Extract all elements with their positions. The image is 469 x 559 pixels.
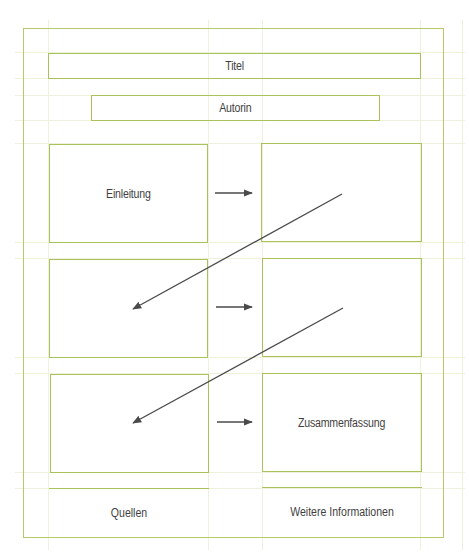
summary-label: Zusammenfassung bbox=[298, 416, 385, 430]
footer-divider-left bbox=[49, 488, 209, 489]
row3-right-box: Zusammenfassung bbox=[262, 373, 422, 472]
row2-right-box bbox=[262, 258, 422, 357]
row2-left-box bbox=[49, 259, 208, 358]
row1-left-box: Einleitung bbox=[49, 144, 208, 243]
title-box: Titel bbox=[48, 53, 421, 79]
title-label: Titel bbox=[225, 59, 244, 73]
footer-divider-right bbox=[262, 487, 422, 488]
further-information-label: Weitere Informationen bbox=[272, 505, 413, 519]
grid-line bbox=[462, 20, 463, 550]
author-box: Autorin bbox=[91, 95, 380, 121]
sources-label: Quellen bbox=[59, 506, 200, 520]
introduction-label: Einleitung bbox=[106, 187, 151, 201]
row1-right-box bbox=[261, 143, 422, 242]
row3-left-box bbox=[50, 374, 209, 473]
author-label: Autorin bbox=[219, 101, 251, 115]
diagram-canvas: Titel Autorin Einleitung Zusammenfassung… bbox=[0, 0, 469, 559]
